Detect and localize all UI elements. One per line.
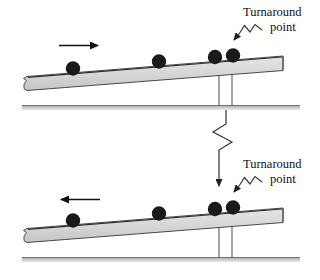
ball (226, 200, 240, 214)
panel-upper: Turnaround point (22, 5, 302, 110)
turnaround-label-lower-line2: point (270, 172, 296, 186)
ball (208, 50, 222, 64)
ball (226, 48, 240, 62)
ball (152, 54, 166, 68)
ground-line-upper (22, 105, 300, 110)
ground-line-lower (22, 257, 300, 262)
ball (66, 213, 80, 227)
physics-diagram-figure: Turnaround point (0, 0, 320, 280)
panel-lower: Turnaround point (22, 157, 302, 262)
panel-break-connector (213, 110, 232, 186)
diagram-canvas: Turnaround point (0, 0, 320, 280)
ball (152, 206, 166, 220)
turnaround-label-upper-line1: Turnaround (243, 5, 302, 19)
leader-line-upper (234, 25, 262, 41)
ball (208, 202, 222, 216)
turnaround-label-lower-line1: Turnaround (243, 157, 302, 171)
turnaround-label-upper-line2: point (270, 20, 296, 34)
ball (66, 61, 80, 75)
leader-line-lower (234, 177, 262, 193)
